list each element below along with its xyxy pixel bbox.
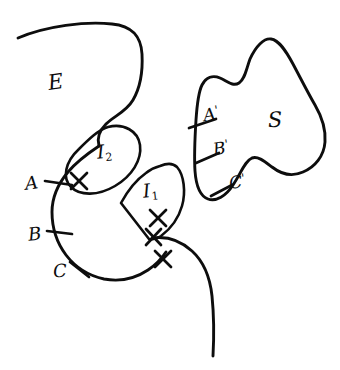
label-region-e: E: [47, 71, 65, 94]
label-point-a: A: [24, 173, 39, 192]
label-point-b-prime: B': [212, 138, 230, 158]
diagram-ink-layer: [0, 0, 340, 370]
label-i2-subscript: 2: [104, 150, 113, 164]
tick-b: [47, 231, 72, 234]
label-point-b: B: [27, 224, 42, 243]
label-i1-subscript: 1: [150, 189, 159, 203]
label-point-c-prime: C': [228, 172, 247, 192]
cross-mark-in-i2: [71, 173, 87, 189]
figure-canvas: E S I2 I1 A B C A' B' C': [0, 0, 340, 370]
tick-c: [70, 262, 89, 277]
label-subregion-i2: I2: [96, 141, 113, 163]
tail-curve: [152, 238, 214, 356]
cross-mark-in-i1: [150, 210, 166, 226]
label-subregion-i1: I1: [142, 180, 159, 202]
region-e-lower-arc: [52, 146, 166, 280]
label-region-s: S: [267, 110, 282, 132]
label-point-c: C: [52, 262, 67, 281]
cross-mark-below-junction: [155, 251, 171, 267]
label-point-a-prime: A': [202, 104, 220, 124]
